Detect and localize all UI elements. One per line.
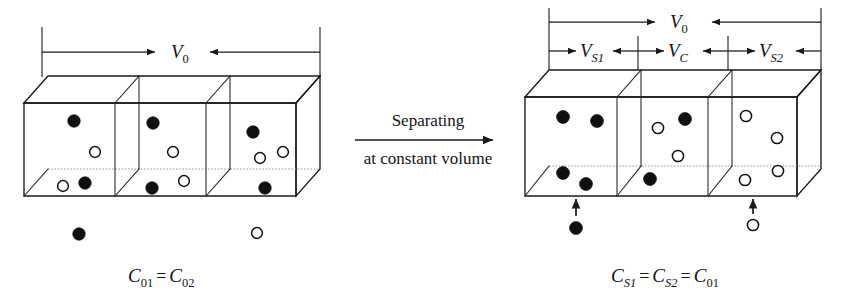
- right-divider-1-top: [617, 70, 641, 97]
- left-box-floor-left-edge: [24, 169, 48, 196]
- right-divider-1-floor: [617, 166, 641, 196]
- left-compartment-3-filled-particle: [247, 126, 259, 138]
- left-divider-2-top: [206, 76, 230, 103]
- right-compartment-3-open-particle: [772, 165, 783, 176]
- left-compartment-1-filled-particle: [79, 177, 91, 189]
- left-compartment-1-filled-particle: [68, 115, 80, 127]
- right-injected-particles: [570, 219, 759, 234]
- left-divider-2-floor: [206, 169, 230, 196]
- process-arrow-group: Separating at constant volume: [355, 111, 493, 168]
- right-box-group: V0 VS1 VC VS2: [525, 8, 821, 290]
- right-compartment-2-open-particle: [652, 122, 663, 133]
- left-divider-1-top: [115, 76, 139, 103]
- separating-at-constant-volume-figure: V0: [0, 0, 843, 306]
- right-injected-filled-particle: [570, 222, 583, 235]
- left-caption: C01=C02: [128, 265, 195, 290]
- left-box-group: V0: [24, 27, 320, 290]
- right-divider-2-top: [708, 70, 732, 97]
- left-caption-text: C01=C02: [128, 265, 195, 290]
- right-caption: CS1=CS2=C01: [611, 265, 719, 290]
- right-compartment-3-open-particle: [739, 174, 750, 185]
- process-label-line1: Separating: [392, 111, 465, 130]
- right-dim-label-vs1: VS1: [580, 40, 604, 65]
- left-escaped-filled-particle: [73, 228, 85, 240]
- right-caption-text: CS1=CS2=C01: [611, 265, 719, 290]
- left-compartment-2-filled-particle: [147, 117, 159, 129]
- left-dimension-v0: V0: [42, 27, 320, 77]
- left-compartment-2-filled-particle: [146, 182, 158, 194]
- left-dim-label-v0: V0: [171, 41, 189, 66]
- right-box-dividers: [617, 70, 732, 196]
- right-dim-label-vc: VC: [668, 40, 689, 65]
- left-divider-1-floor: [115, 169, 139, 196]
- right-compartment-1-filled-particle: [557, 167, 570, 180]
- left-box-top-face: [24, 76, 320, 103]
- left-box-particles: [58, 115, 289, 194]
- right-compartment-2-filled-particle: [644, 173, 657, 186]
- right-compartment-2-open-particle: [672, 150, 683, 161]
- right-compartment-2-filled-particle: [679, 113, 692, 126]
- right-compartment-1-filled-particle: [591, 115, 604, 128]
- left-compartment-3-open-particle: [278, 147, 289, 158]
- right-compartment-3-open-particle: [771, 132, 782, 143]
- right-box-top-face: [525, 70, 821, 97]
- right-divider-2-floor: [708, 166, 732, 196]
- left-compartment-3-filled-particle: [259, 182, 271, 194]
- right-box-floor-left-edge: [525, 166, 549, 196]
- right-box-particles: [557, 110, 784, 190]
- right-compartment-1-filled-particle: [557, 111, 570, 124]
- left-compartment-3-open-particle: [255, 153, 266, 164]
- left-compartment-1-open-particle: [58, 181, 69, 192]
- left-box-right-face: [296, 76, 320, 196]
- left-box-shell: [24, 76, 320, 196]
- right-dimension-compartments: VS1 VC VS2: [549, 36, 821, 70]
- diagram-canvas: V0: [0, 0, 843, 306]
- right-compartment-1-filled-particle: [580, 178, 593, 191]
- left-escaped-particles: [73, 228, 263, 241]
- left-escaped-open-particle: [252, 228, 263, 239]
- left-compartment-2-open-particle: [168, 147, 179, 158]
- right-dim-label-v0: V0: [670, 11, 688, 36]
- left-compartment-2-open-particle: [179, 176, 190, 187]
- right-box-right-face: [797, 70, 821, 196]
- process-label-line2: at constant volume: [364, 149, 492, 168]
- left-compartment-1-open-particle: [90, 147, 101, 158]
- right-injected-open-particle: [747, 219, 758, 230]
- right-dim-label-vs2: VS2: [759, 40, 783, 65]
- left-box-dividers: [115, 76, 230, 196]
- right-injection-arrows: [576, 199, 753, 216]
- right-compartment-3-open-particle: [740, 110, 751, 121]
